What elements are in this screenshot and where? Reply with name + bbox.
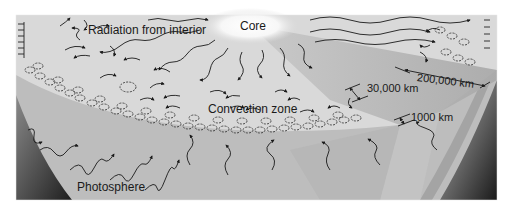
label-photosphere: Photosphere (77, 181, 145, 193)
label-convection-zone: Convection zone (208, 103, 297, 115)
sun-interior-diagram: Core Radiation from interior Convection … (0, 0, 514, 211)
label-core: Core (240, 20, 266, 32)
dimension-label-30000km: 30,000 km (367, 83, 418, 94)
dimension-label-1000km: 1000 km (411, 112, 453, 123)
label-radiation: Radiation from interior (88, 24, 206, 36)
